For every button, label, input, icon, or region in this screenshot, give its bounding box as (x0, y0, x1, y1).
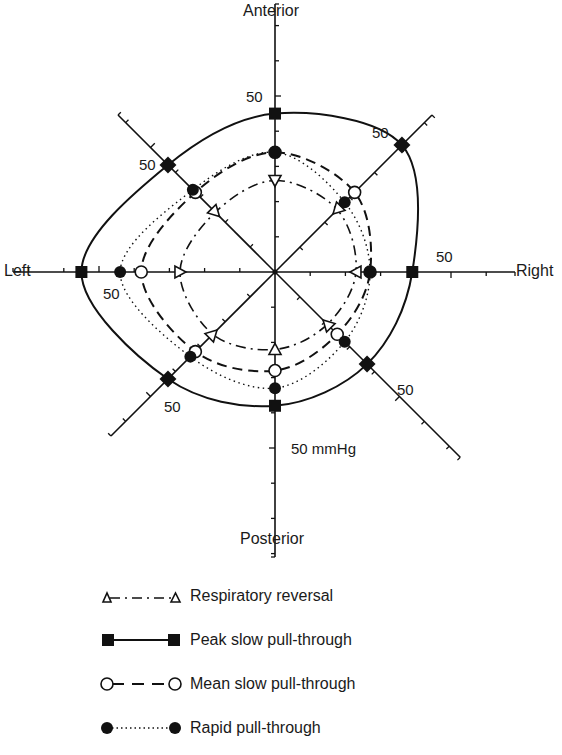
filled-circle-marker (269, 382, 281, 394)
open-circle-marker (135, 266, 147, 278)
legend-label: Mean slow pull-through (190, 675, 355, 693)
radial-pressure-chart (0, 0, 562, 560)
open-circle-marker (269, 365, 281, 377)
center-point (273, 270, 278, 275)
open-triangle-dash-dot-icon (100, 586, 182, 606)
tick-label-right-50: 50 (436, 248, 453, 265)
legend: Respiratory reversal Peak slow pull-thro… (100, 574, 500, 750)
filled-square-marker (406, 266, 418, 278)
axis-label-posterior: Posterior (240, 530, 304, 548)
filled-circle-marker (364, 266, 376, 278)
series-markers (75, 108, 418, 412)
series-line-3 (120, 152, 370, 388)
filled-circle-dotted-icon (100, 718, 182, 738)
legend-label: Peak slow pull-through (190, 631, 352, 649)
open-circle-dashed-icon (100, 674, 182, 694)
open-triangle-marker (269, 343, 281, 354)
legend-label: Respiratory reversal (190, 587, 333, 605)
filled-square-marker (75, 266, 87, 278)
tick-label-sw-50: 50 (164, 398, 181, 415)
legend-item-peak-slow-pull-through: Peak slow pull-through (100, 618, 500, 662)
filled-circle-marker (184, 351, 196, 363)
filled-circle-marker (269, 146, 281, 158)
legend-item-respiratory-reversal: Respiratory reversal (100, 574, 500, 618)
open-circle-marker (349, 186, 361, 198)
legend-item-mean-slow-pull-through: Mean slow pull-through (100, 662, 500, 706)
filled-circle-marker (339, 336, 351, 348)
tick-label-ne-50: 50 (372, 124, 389, 141)
tick-label-se-50: 50 (397, 381, 414, 398)
filled-square-marker (269, 108, 281, 120)
legend-label: Rapid pull-through (190, 719, 321, 737)
tick-label-anterior-50: 50 (246, 88, 263, 105)
tick-label-posterior-50-mmhg: 50 mmHg (291, 440, 356, 457)
filled-square-marker (269, 400, 281, 412)
tick-label-nw-50: 50 (139, 156, 156, 173)
axis-label-anterior: Anterior (243, 2, 299, 20)
axis-label-right: Right (516, 262, 553, 280)
filled-circle-marker (187, 184, 199, 196)
axes (13, 4, 515, 557)
filled-circle-marker (114, 266, 126, 278)
filled-circle-marker (339, 196, 351, 208)
legend-item-rapid-pull-through: Rapid pull-through (100, 706, 500, 750)
tick-label-left-50: 50 (103, 285, 120, 302)
filled-square-solid-icon (100, 630, 182, 650)
axis-label-left: Left (4, 262, 31, 280)
